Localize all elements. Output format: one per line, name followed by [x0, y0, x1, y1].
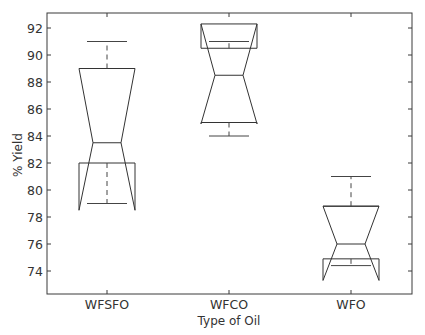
y-tick-label: 90	[27, 48, 43, 63]
y-axis-title: % Yield	[11, 133, 25, 177]
y-tick-label: 76	[27, 237, 43, 252]
box-wfo	[323, 177, 379, 281]
x-tick-label: WFCO	[210, 297, 248, 312]
box-group	[79, 24, 379, 281]
y-tick-label: 84	[27, 129, 43, 144]
y-tick-label: 74	[27, 264, 43, 279]
y-tick-label: 80	[27, 183, 43, 198]
y-tick-label: 92	[27, 21, 43, 36]
notched-box	[323, 206, 379, 280]
plot-frame	[47, 13, 412, 294]
x-axis-title: Type of Oil	[197, 314, 261, 328]
notched-box	[201, 24, 257, 124]
y-tick-label: 88	[27, 75, 43, 90]
box-wfco	[201, 24, 257, 136]
x-tick-label: WFO	[336, 297, 366, 312]
y-axis: 74767880828486889092	[27, 21, 412, 279]
boxplot-chart: 74767880828486889092 WFSFOWFCOWFO Type o…	[0, 0, 425, 335]
y-tick-label: 82	[27, 156, 43, 171]
y-tick-label: 86	[27, 102, 43, 117]
box-wfsfo	[79, 42, 135, 211]
y-tick-label: 78	[27, 210, 43, 225]
notched-box	[79, 69, 135, 211]
x-tick-label: WFSFO	[85, 297, 129, 312]
